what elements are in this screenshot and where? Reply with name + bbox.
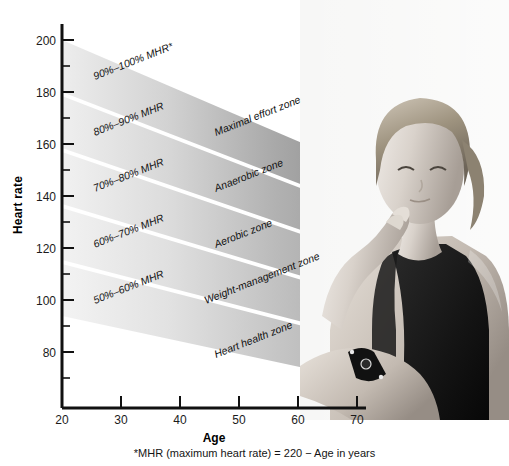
y-axis-title: Heart rate <box>11 176 25 234</box>
x-tick-40: 40 <box>173 413 187 427</box>
heart-rate-zone-chart: 200 180 160 140 120 100 80 20 30 40 50 6… <box>0 0 509 466</box>
y-axis-title-wrapper: Heart rate <box>8 165 28 245</box>
x-tick-60: 60 <box>291 413 305 427</box>
x-tick-30: 30 <box>114 413 128 427</box>
y-tick-80: 80 <box>43 346 57 360</box>
x-tick-20: 20 <box>55 413 69 427</box>
y-tick-140: 140 <box>36 190 56 204</box>
x-tick-50: 50 <box>232 413 246 427</box>
y-tick-160: 160 <box>36 138 56 152</box>
y-tick-120: 120 <box>36 242 56 256</box>
athlete-photo <box>300 0 509 420</box>
x-tick-70: 70 <box>350 413 364 427</box>
y-tick-180: 180 <box>36 86 56 100</box>
x-axis-title: Age <box>203 431 226 445</box>
y-tick-200: 200 <box>36 34 56 48</box>
chart-figure: 200 180 160 140 120 100 80 20 30 40 50 6… <box>0 0 509 466</box>
y-tick-100: 100 <box>36 294 56 308</box>
y-tick-labels: 200 180 160 140 120 100 80 <box>36 34 56 360</box>
chart-footnote: *MHR (maximum heart rate) = 220 − Age in… <box>0 447 509 459</box>
